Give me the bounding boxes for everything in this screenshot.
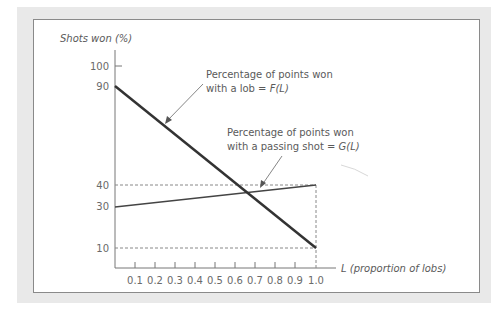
series-lob-line xyxy=(115,86,316,248)
x-tick-label: 0.1 xyxy=(127,275,143,286)
annotation-passing-line1: Percentage of points won xyxy=(227,127,354,138)
series-passing-shot-line xyxy=(115,185,316,207)
x-tick-label: 0.2 xyxy=(147,275,163,286)
annotation-lob-line2: with a lob = F(L) xyxy=(206,83,289,94)
y-tick-label: 30 xyxy=(96,201,109,212)
y-tick-label: 100 xyxy=(90,61,109,72)
x-axis-label: L (proportion of lobs) xyxy=(341,263,446,274)
x-tick-label: 0.9 xyxy=(287,275,303,286)
x-tick-label: 1.0 xyxy=(308,275,324,286)
annotation-passing-arrow xyxy=(262,156,282,185)
x-tick-label: 0.5 xyxy=(207,275,223,286)
x-tick-label: 0.8 xyxy=(267,275,283,286)
x-tick-label: 0.3 xyxy=(167,275,183,286)
x-ticks xyxy=(135,262,295,268)
annotation-lob-line1: Percentage of points won xyxy=(206,69,333,80)
x-tick-label: 0.4 xyxy=(187,275,203,286)
reference-lines xyxy=(115,185,316,268)
y-axis-label: Shots won (%) xyxy=(60,33,132,44)
y-tick-label: 10 xyxy=(96,243,109,254)
y-tick-label: 90 xyxy=(96,81,109,92)
x-tick-label: 0.6 xyxy=(227,275,243,286)
annotation-passing-line2: with a passing shot = G(L) xyxy=(227,141,360,152)
chart-svg: Shots won (%) 100 90 40 30 10 0.1 0.2 0.… xyxy=(0,0,498,315)
stray-mark xyxy=(341,165,368,176)
y-tick-label: 40 xyxy=(96,180,109,191)
x-tick-label: 0.7 xyxy=(247,275,263,286)
annotation-lob-arrow xyxy=(167,84,203,121)
